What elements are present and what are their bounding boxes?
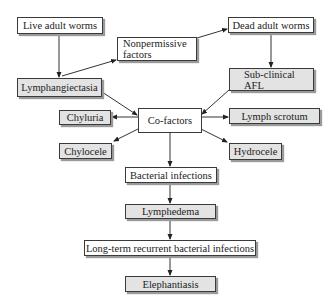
node-lymphedema: Lymphedema	[125, 204, 216, 219]
node-label: Live adult worms	[23, 20, 97, 31]
flowchart: Live adult worms Nonpermissive factors D…	[0, 0, 335, 307]
node-chylocele: Chylocele	[59, 143, 112, 159]
arrow-nonpermissive-to-dead	[197, 29, 227, 38]
node-label: Elephantiasis	[143, 279, 199, 290]
node-lymph-scrotum: Lymph scrotum	[229, 108, 320, 124]
node-label: Hydrocele	[234, 146, 278, 157]
node-label: Lymph scrotum	[241, 111, 307, 122]
node-label-line1: Nonpermissive	[123, 38, 187, 49]
node-label: Lymphedema	[142, 206, 199, 217]
node-label: Lymphangiectasia	[21, 82, 97, 93]
node-dead-adult-worms: Dead adult worms	[228, 17, 314, 33]
arrow-cofactors-to-chylocele	[114, 129, 138, 141]
node-subclinical-afl: Sub-clinical AFL	[229, 68, 314, 91]
node-bacterial-infections: Bacterial infections	[125, 167, 217, 183]
node-hydrocele: Hydrocele	[229, 143, 282, 160]
arrow-cofactors-to-hydrocele	[201, 129, 227, 142]
node-chyluria: Chyluria	[59, 110, 111, 125]
node-label-line2: factors	[123, 49, 152, 60]
node-label: Bacterial infections	[130, 170, 212, 181]
node-label: Co-factors	[148, 115, 192, 126]
node-live-adult-worms: Live adult worms	[17, 17, 103, 34]
node-elephantiasis: Elephantiasis	[125, 276, 216, 292]
node-cofactors: Co-factors	[138, 108, 202, 133]
node-label-line2: AFL	[244, 80, 264, 91]
node-label: Chylocele	[64, 146, 107, 157]
node-label-line1: Sub-clinical	[244, 69, 295, 80]
node-long-term-recurrent-infections: Long-term recurrent bacterial infections	[84, 240, 256, 256]
arrow-subclinical-to-cofactors	[202, 90, 229, 114]
node-label: Dead adult worms	[233, 20, 310, 31]
node-nonpermissive-factors: Nonpermissive factors	[117, 37, 197, 61]
arrow-lymphangiectasia-to-nonpermissive	[62, 60, 116, 76]
node-lymphangiectasia: Lymphangiectasia	[17, 78, 102, 97]
node-label: Long-term recurrent bacterial infections	[86, 243, 254, 254]
node-label: Chyluria	[67, 112, 104, 123]
